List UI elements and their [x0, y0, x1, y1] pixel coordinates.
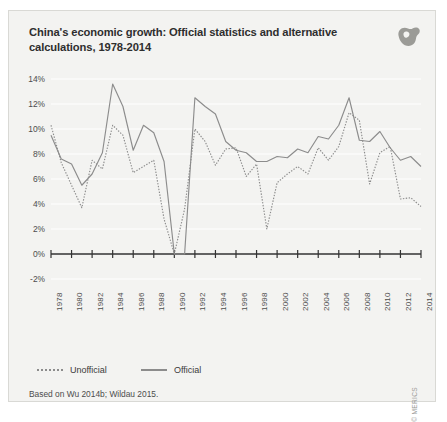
legend-swatch-dotted: [37, 369, 63, 371]
legend-label: Unofficial: [70, 365, 107, 375]
x-axis-label: 2002: [301, 292, 310, 311]
chart-legend: UnofficialOfficial: [37, 363, 337, 379]
y-axis-tick-label: 0%: [33, 249, 46, 259]
y-axis-tick-label: 8%: [33, 149, 46, 159]
legend-label: Official: [174, 365, 201, 375]
x-axis-labels: 1978198019821984198619881990199219941996…: [21, 309, 425, 359]
x-axis-label: 1980: [75, 292, 84, 311]
merics-logo: [394, 24, 422, 48]
x-axis-label: 2014: [425, 292, 434, 311]
y-axis-tick-label: -2%: [30, 274, 45, 284]
x-axis-label: 2012: [404, 292, 413, 311]
x-axis-label: 2006: [342, 292, 351, 311]
source-note: Based on Wu 2014b; Wildau 2015.: [29, 389, 158, 399]
y-axis-tick-label: 4%: [33, 199, 46, 209]
legend-item-unofficial[interactable]: Unofficial: [37, 363, 107, 377]
x-axis-label: 2004: [322, 292, 331, 311]
x-axis-label: 1992: [198, 292, 207, 311]
x-axis-label: 2008: [363, 292, 372, 311]
legend-item-official[interactable]: Official: [141, 363, 201, 377]
x-axis-label: 2000: [281, 292, 290, 311]
chart-title: China's economic growth: Official statis…: [29, 25, 359, 55]
y-axis-tick-label: 12%: [28, 99, 45, 109]
x-axis-label: 1986: [137, 292, 146, 311]
y-axis-tick-label: 2%: [33, 224, 46, 234]
x-axis-label: 1996: [240, 292, 249, 311]
x-axis-label: 1984: [116, 292, 125, 311]
copyright-label: © MERICS: [411, 387, 418, 422]
y-axis-tick-label: 14%: [28, 74, 45, 84]
legend-swatch-solid: [141, 369, 167, 371]
x-axis-label: 2010: [383, 292, 392, 311]
x-axis-label: 1994: [219, 292, 228, 311]
y-axis-tick-label: 10%: [28, 124, 45, 134]
x-axis-label: 1990: [178, 292, 187, 311]
y-axis-tick-label: 6%: [33, 174, 46, 184]
plot-area: 14%12%10%8%6%4%2%0%-2%: [21, 71, 425, 311]
x-axis-label: 1982: [96, 292, 105, 311]
x-axis-label: 1998: [260, 292, 269, 311]
figure-panel: China's economic growth: Official statis…: [8, 10, 436, 402]
x-axis-label: 1988: [157, 292, 166, 311]
x-axis-label: 1978: [55, 292, 64, 311]
series-line-unofficial: [51, 113, 421, 254]
